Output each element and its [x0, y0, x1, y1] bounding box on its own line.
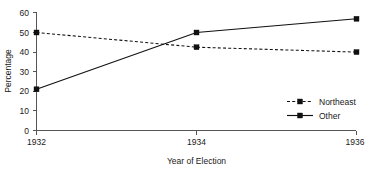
x-tick-label-1934: 1934 — [187, 137, 206, 147]
legend-marker-other — [298, 113, 303, 118]
y-tick-label-60: 60 — [20, 8, 30, 18]
y-tick-label-30: 30 — [20, 67, 30, 77]
data-point-other-1932 — [34, 87, 39, 92]
legend-label-northeast: Northeast — [319, 97, 356, 107]
y-tick-label-50: 50 — [20, 28, 30, 38]
y-axis-title: Percentage — [3, 49, 13, 93]
x-tick-label-1932: 1932 — [27, 137, 46, 147]
y-tick-label-40: 40 — [20, 47, 30, 57]
legend-marker-northeast — [298, 99, 303, 104]
line-chart-canvas: 0 10 20 30 40 50 60 1932 1934 1936 Year … — [0, 0, 372, 173]
legend-label-other: Other — [319, 111, 340, 121]
data-point-other-1936 — [354, 16, 359, 21]
x-tick-label-1936: 1936 — [346, 137, 365, 147]
x-axis-title: Year of Election — [167, 156, 226, 166]
data-point-other-1934 — [194, 30, 199, 35]
chart-figure: 0 10 20 30 40 50 60 1932 1934 1936 Year … — [0, 0, 372, 173]
y-tick-label-20: 20 — [20, 86, 30, 96]
series-line-other — [37, 19, 357, 90]
y-tick-label-0: 0 — [24, 126, 29, 136]
legend-item-northeast: Northeast — [287, 97, 356, 107]
data-point-northeast-1936 — [354, 50, 359, 55]
data-point-northeast-1934 — [194, 45, 199, 50]
legend-item-other: Other — [287, 111, 340, 121]
chart-legend: Northeast Other — [287, 97, 356, 121]
data-point-northeast-1932 — [34, 30, 39, 35]
y-tick-label-10: 10 — [20, 106, 30, 116]
x-axis-ticks — [37, 131, 357, 135]
